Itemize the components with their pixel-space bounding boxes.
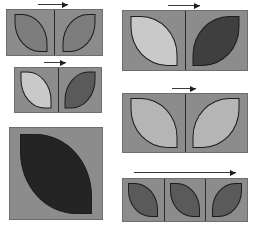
panel-cell bbox=[15, 68, 59, 112]
leaf-shape bbox=[193, 16, 240, 66]
panel-cell bbox=[55, 10, 102, 55]
right-arrow-icon bbox=[44, 59, 66, 66]
arrow-head bbox=[194, 3, 200, 9]
leaf-shape bbox=[64, 72, 95, 109]
panel-cell bbox=[165, 179, 207, 221]
right-arrow-icon bbox=[134, 169, 236, 176]
leaf-shape bbox=[130, 16, 177, 66]
panel-cell bbox=[10, 128, 102, 219]
arrow-head bbox=[62, 2, 68, 8]
figure-canvas bbox=[0, 0, 254, 231]
shape-panel bbox=[122, 93, 248, 153]
leaf-shape bbox=[130, 98, 177, 148]
panel-cell bbox=[186, 94, 248, 152]
shape-panel bbox=[122, 178, 248, 222]
right-arrow-icon bbox=[168, 2, 200, 9]
arrow-head bbox=[60, 60, 66, 66]
leaf-shape bbox=[128, 183, 158, 217]
arrow-head bbox=[190, 86, 196, 92]
panel-cell bbox=[59, 68, 102, 112]
shape-panel bbox=[6, 9, 103, 56]
panel-cell bbox=[123, 94, 186, 152]
leaf-shape bbox=[212, 183, 242, 217]
shape-panel bbox=[122, 10, 248, 71]
arrow-shaft bbox=[134, 172, 236, 173]
leaf-shape bbox=[14, 14, 47, 52]
shape-panel bbox=[14, 67, 102, 113]
right-arrow-icon bbox=[172, 85, 196, 92]
leaf-shape bbox=[62, 14, 95, 52]
panel-cell bbox=[186, 11, 248, 70]
leaf-shape bbox=[20, 134, 92, 214]
arrow-head bbox=[230, 170, 236, 176]
shape-panel bbox=[9, 127, 103, 220]
right-arrow-icon bbox=[38, 1, 68, 8]
panel-cell bbox=[206, 179, 247, 221]
panel-cell bbox=[123, 11, 186, 70]
panel-cell bbox=[123, 179, 165, 221]
leaf-shape bbox=[193, 98, 240, 148]
panel-cell bbox=[7, 10, 55, 55]
leaf-shape bbox=[21, 72, 52, 109]
leaf-shape bbox=[170, 183, 200, 217]
